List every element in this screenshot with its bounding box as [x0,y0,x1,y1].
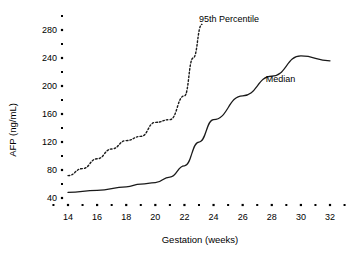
x-tick-label: 18 [121,212,131,222]
axis-tick-mark [61,85,63,87]
y-tick-label: 240 [42,53,57,63]
y-tick-label: 280 [42,25,57,35]
y-tick-label: 200 [42,81,57,91]
axis-tick-mark [242,204,244,206]
x-tick-label: 32 [325,212,335,222]
axis-tick-mark [61,169,63,171]
axis-tick-mark [212,204,214,206]
axis-tick-mark [314,204,316,206]
series-label-median: Median [266,74,296,84]
axis-tick-mark [344,204,346,206]
y-tick-label: 40 [47,193,57,203]
axis-tick-mark [154,204,156,206]
axis-tick-mark [61,99,63,101]
axis-tick-mark [271,204,273,206]
plot-series-group [68,24,330,192]
x-tick-label: 16 [92,212,102,222]
x-tick-label: 26 [238,212,248,222]
y-axis-group: AFP (ng/mL) 4080120160200240280 [7,15,63,203]
chart-canvas: AFP (ng/mL) 4080120160200240280 14161820… [0,0,356,256]
axis-tick-mark [61,141,63,143]
afp-gestation-chart: AFP (ng/mL) 4080120160200240280 14161820… [0,0,356,256]
axis-tick-mark [169,204,171,206]
x-axis-tick-labels: 14161820222426283032 [63,212,335,222]
axis-tick-mark [329,204,331,206]
series-label-95th-percentile: 95th Percentile [199,14,259,24]
axis-tick-mark [61,57,63,59]
axis-tick-mark [67,204,69,206]
axis-tick-mark [61,155,63,157]
x-tick-label: 28 [267,212,277,222]
axis-tick-mark [285,204,287,206]
y-tick-label: 80 [47,165,57,175]
x-tick-label: 24 [209,212,219,222]
axis-tick-mark [61,29,63,31]
axis-tick-mark [61,15,63,17]
x-tick-label: 22 [179,212,189,222]
axis-tick-mark [256,204,258,206]
axis-tick-mark [140,204,142,206]
axis-tick-mark [82,204,84,206]
axis-tick-mark [61,183,63,185]
axis-tick-mark [198,204,200,206]
axis-tick-mark [183,204,185,206]
axis-tick-mark [300,204,302,206]
axis-tick-mark [125,204,127,206]
axis-tick-mark [96,204,98,206]
axis-tick-mark [61,127,63,129]
axis-tick-mark [52,204,54,206]
axis-tick-mark [61,43,63,45]
x-axis-title: Gestation (weeks) [162,234,239,245]
axis-tick-mark [61,71,63,73]
axis-tick-mark [111,204,113,206]
y-axis-title: AFP (ng/mL) [7,103,18,157]
y-axis-ticks [61,15,63,199]
series-annotations: 95th Percentile Median [199,14,295,84]
axis-tick-mark [61,197,63,199]
series-line-95th-percentile [68,24,202,175]
y-tick-label: 160 [42,109,57,119]
x-tick-label: 14 [63,212,73,222]
axis-tick-mark [227,204,229,206]
y-axis-tick-labels: 4080120160200240280 [42,25,57,203]
x-tick-label: 30 [296,212,306,222]
x-axis-group: 14161820222426283032 Gestation (weeks) [52,204,345,245]
x-axis-ticks [52,204,345,206]
axis-tick-mark [61,113,63,115]
y-tick-label: 120 [42,137,57,147]
x-tick-label: 20 [150,212,160,222]
